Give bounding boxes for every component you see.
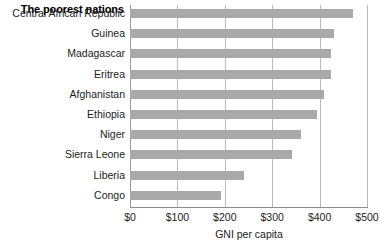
bar-row <box>130 5 367 25</box>
plot-area <box>130 5 367 207</box>
bar-row <box>130 45 367 65</box>
category-label: Eritrea <box>0 68 125 80</box>
category-label: Central African Republic <box>0 7 125 19</box>
x-tick-label: $200 <box>213 211 236 223</box>
bar-row <box>130 187 367 207</box>
bar-row <box>130 86 367 106</box>
category-label: Afghanistan <box>0 88 125 100</box>
bar <box>130 49 331 58</box>
bar <box>130 29 334 38</box>
x-tick-label: $500 <box>355 211 378 223</box>
category-label: Guinea <box>0 27 125 39</box>
category-label: Niger <box>0 128 125 140</box>
x-axis-line <box>130 207 368 208</box>
x-tick-label: $300 <box>261 211 284 223</box>
x-tick-label: $400 <box>308 211 331 223</box>
bar <box>130 150 292 159</box>
bar <box>130 70 331 79</box>
bar-row <box>130 146 367 166</box>
bar <box>130 90 324 99</box>
bar-row <box>130 66 367 86</box>
category-label: Liberia <box>0 169 125 181</box>
bar-row <box>130 106 367 126</box>
x-tick-label: $100 <box>166 211 189 223</box>
bar <box>130 191 221 200</box>
bar-row <box>130 167 367 187</box>
bar <box>130 171 244 180</box>
x-axis-title: GNI per capita <box>130 228 368 240</box>
bar <box>130 110 317 119</box>
bar <box>130 130 301 139</box>
bar-row <box>130 126 367 146</box>
category-label: Sierra Leone <box>0 148 125 160</box>
bar <box>130 9 353 18</box>
category-label: Congo <box>0 189 125 201</box>
x-tick-label: $0 <box>124 211 136 223</box>
bar-row <box>130 25 367 45</box>
category-label: Ethiopia <box>0 108 125 120</box>
category-label: Madagascar <box>0 47 125 59</box>
bar-chart: The poorest nations Central African Repu… <box>0 0 380 248</box>
gridline-500 <box>367 5 368 207</box>
